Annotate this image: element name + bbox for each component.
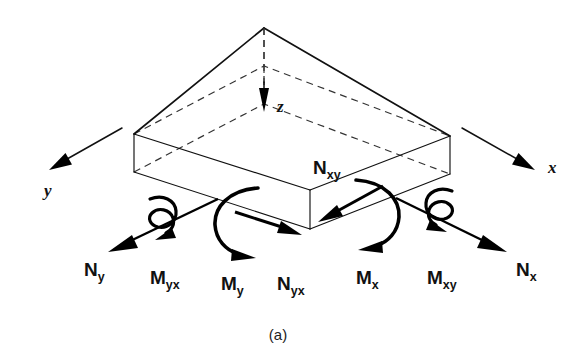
axis-x-label: x	[547, 158, 557, 177]
force-arrow-Nx: Nx	[396, 198, 537, 284]
moment-Mxy-coil	[426, 189, 453, 225]
label-Myx: Myx	[150, 267, 180, 292]
moment-Mx-arrowhead	[358, 241, 383, 253]
axis-x: x	[462, 128, 557, 177]
moment-arrow-Myx: Myx	[150, 197, 180, 292]
force-Nx-arrowhead	[477, 235, 507, 252]
label-Nx: Nx	[516, 259, 537, 284]
moment-Myx-coil	[150, 197, 177, 233]
label-Nyx: Nyx	[277, 273, 305, 298]
axis-y: y	[42, 128, 122, 200]
moment-My-arrowhead	[231, 249, 256, 261]
figure-container: z x y Ny Nx	[0, 0, 583, 360]
label-My: My	[221, 273, 244, 298]
slab-body	[134, 28, 450, 229]
figure-caption: (a)	[269, 326, 287, 343]
axis-z-label: z	[276, 97, 284, 116]
label-Mx: Mx	[356, 267, 379, 292]
label-Ny: Ny	[84, 259, 105, 284]
axis-x-arrowhead	[512, 153, 535, 170]
axis-x-line	[462, 128, 524, 163]
force-Ny-arrowhead	[108, 235, 138, 252]
axis-y-line	[60, 128, 122, 163]
axis-y-arrowhead	[49, 153, 72, 170]
label-Mxy: Mxy	[427, 267, 457, 292]
moment-arrow-Mxy: Mxy	[426, 189, 457, 292]
axis-y-label: y	[42, 181, 52, 200]
plate-element-diagram: z x y Ny Nx	[0, 0, 583, 360]
moment-Myx-arrowhead	[155, 228, 176, 240]
